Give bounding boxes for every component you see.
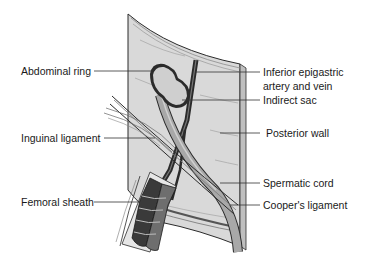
label-coopers-ligament: Cooper's ligament <box>263 199 347 211</box>
label-abdominal-ring: Abdominal ring <box>21 65 91 77</box>
label-spermatic-cord: Spermatic cord <box>263 177 334 189</box>
label-posterior-wall: Posterior wall <box>266 127 329 139</box>
label-inferior-epigastric-line2: artery and vein <box>263 80 332 92</box>
label-inguinal-ligament: Inguinal ligament <box>21 132 100 144</box>
label-indirect-sac: Indirect sac <box>263 94 317 106</box>
label-femoral-sheath: Femoral sheath <box>21 196 94 208</box>
label-inferior-epigastric-line1: Inferior epigastric <box>263 66 344 78</box>
